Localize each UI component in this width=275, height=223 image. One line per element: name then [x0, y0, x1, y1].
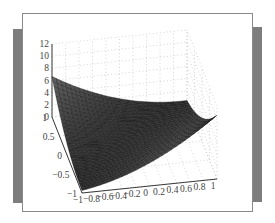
z-tick-label: 2 [44, 100, 49, 110]
y-tick-label: 1 [42, 113, 47, 123]
right-side-bar [253, 27, 262, 202]
y-tick-label: 0 [57, 151, 62, 161]
surface-plot: 024681012 −1−0.500.51 −1−0.8−0.6−0.4−0.2… [23, 14, 254, 213]
x-tick-label: 0.6 [180, 184, 192, 194]
surface-mesh [52, 76, 217, 190]
y-tick-label: −0.5 [52, 170, 69, 180]
z-tick-label: 12 [40, 39, 50, 49]
x-tick-label: 0.8 [194, 182, 206, 192]
z-axis-ticks: 024681012 [40, 39, 50, 122]
left-side-bar [13, 29, 22, 203]
z-tick-label: 4 [44, 88, 49, 98]
x-tick-label: 0.2 [153, 187, 165, 197]
x-tick-label: −0.2 [123, 189, 140, 199]
z-tick-label: 10 [40, 51, 50, 61]
x-tick-label: −1 [73, 195, 83, 205]
x-tick-label: 0 [143, 188, 148, 198]
y-tick-label: 0.5 [43, 132, 55, 142]
x-tick-label: 1 [211, 181, 216, 191]
z-tick-label: 6 [44, 76, 49, 86]
chart-panel: 024681012 −1−0.500.51 −1−0.8−0.6−0.4−0.2… [22, 13, 253, 212]
z-tick-label: 8 [44, 63, 49, 73]
x-tick-label: 0.4 [167, 185, 179, 195]
